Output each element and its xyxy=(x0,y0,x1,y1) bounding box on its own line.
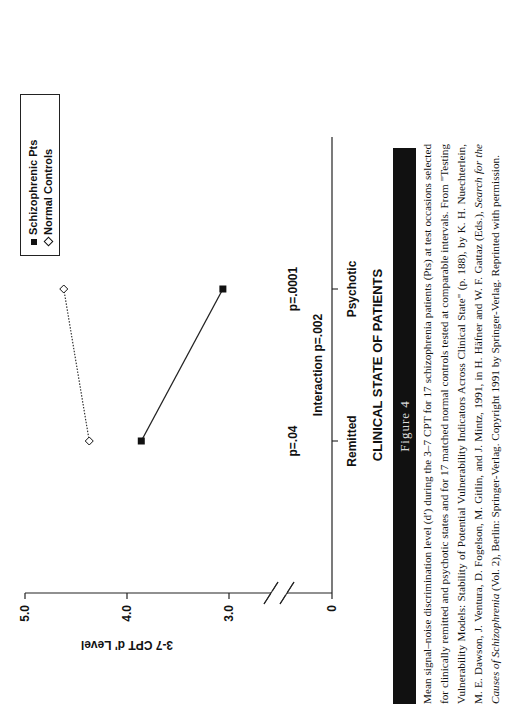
data-point-schizophrenic-psychotic xyxy=(219,286,226,293)
legend-entry-schizophrenic: Schizophrenic Pts xyxy=(25,101,40,249)
series-line-1 xyxy=(64,289,90,441)
chart-marks xyxy=(60,285,227,445)
legend-entry-normal: Normal Controls xyxy=(40,101,55,249)
data-point-normal-remitted xyxy=(85,437,93,445)
open-diamond-marker-icon xyxy=(42,235,54,249)
rotated-page: 03.04.05.03-7 CPT d' LevelRemittedPsycho… xyxy=(0,0,518,724)
caption-line: Mean signal–noise discrimination level (… xyxy=(421,144,433,704)
legend-label: Schizophrenic Pts xyxy=(27,140,39,235)
figure-caption: Mean signal–noise discrimination level (… xyxy=(419,144,504,704)
legend-label: Normal Controls xyxy=(42,149,54,235)
legend: Schizophrenic Pts Normal Controls xyxy=(20,94,60,256)
y-tick-label: 0 xyxy=(325,605,339,612)
x-tick-label-psychotic: Psychotic xyxy=(345,260,359,317)
caption-line: Dawson, J. Ventura, D. Fogelson, M. Gitl… xyxy=(472,208,484,675)
x-axis-title: CLINICAL STATE OF PATIENTS xyxy=(370,269,385,462)
y-tick-label: 3.0 xyxy=(222,605,236,622)
caption-line: (Vol. 2), Berlin: Springer-Verlag. Copyr… xyxy=(489,155,501,591)
filled-square-marker-icon xyxy=(27,235,39,249)
series-line-0 xyxy=(141,289,223,441)
caption-book-title: Schizophrenia xyxy=(489,594,501,658)
caption-line: for clinically remitted and psychotic st… xyxy=(438,144,450,704)
annotation-p-value: p=.04 xyxy=(286,425,300,456)
y-tick-label: 5.0 xyxy=(18,605,32,622)
y-axis-label: 3-7 CPT d' Level xyxy=(81,638,173,652)
axis-break-gap xyxy=(271,591,287,595)
annotation-p-value: Interaction p=.002 xyxy=(311,313,325,416)
data-point-normal-psychotic xyxy=(60,285,68,293)
y-tick-label: 4.0 xyxy=(120,605,134,622)
data-point-schizophrenic-remitted xyxy=(138,438,145,445)
annotation-p-value: p=.0001 xyxy=(286,266,300,311)
figure-label: Figure 4 xyxy=(393,148,416,704)
axes xyxy=(25,137,338,604)
x-tick-label-remitted: Remitted xyxy=(345,415,359,466)
